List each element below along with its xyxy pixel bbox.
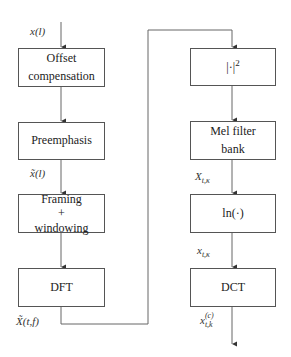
dft-label: DFT [50,279,73,296]
framing-label-line1: Framing [35,192,89,206]
offset-compensation-block: Offset compensation [18,48,105,87]
signal-dct-output-label: x(c)t,k [200,312,214,330]
offset-label-line2: compensation [28,68,95,85]
dct-label: DCT [221,279,245,296]
mel-filter-bank-block: Mel filter bank [190,121,276,160]
dft-block: DFT [18,268,105,307]
signal-mel-output-label: Xt,κ [195,170,210,185]
preemphasis-label: Preemphasis [31,132,92,149]
preemphasis-block: Preemphasis [18,122,105,160]
magnitude-squared-block: |·|2 [190,48,276,86]
signal-ln-output-label: xt,κ [197,244,210,259]
framing-label-line2: + [35,206,89,220]
dct-block: DCT [190,268,276,307]
signal-input-label: x(l) [30,25,45,37]
framing-windowing-block: Framing + windowing [18,194,105,233]
mel-label-line2: bank [210,141,256,158]
ln-block: ln(·) [190,194,276,233]
mel-label-line1: Mel filter [210,123,256,140]
signal-dft-output-label: X̃(t,f) [16,315,39,327]
magsq-label: |·| [226,60,235,74]
magsq-superscript: 2 [235,58,240,68]
ln-label: ln(·) [222,205,243,222]
signal-preemph-label: x̃(l) [30,167,45,179]
framing-label-line3: windowing [35,221,89,235]
offset-label-line1: Offset [28,50,95,67]
